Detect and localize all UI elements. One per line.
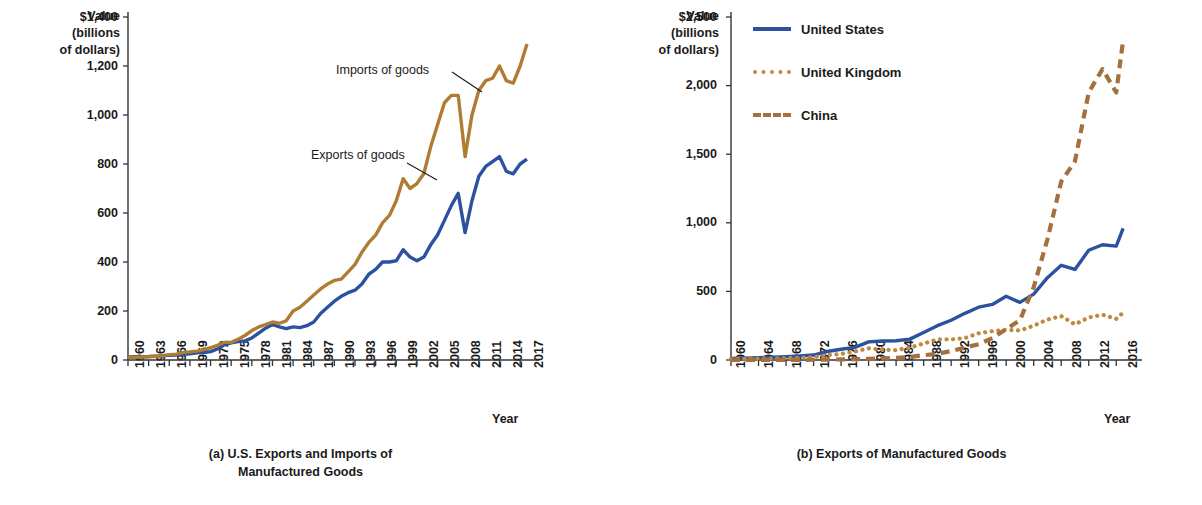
panel-a-caption-line1: (a) U.S. Exports and Imports of [0,445,601,463]
panel-a-caption: (a) U.S. Exports and Imports of Manufact… [0,445,601,481]
chart-panel-b: Value (billions of dollars) $2,500 2,000… [601,0,1202,505]
chart-panel-a: Value (billions of dollars) $1,400 1,200… [0,0,601,505]
panel-b-caption: (b) Exports of Manufactured Goods [601,445,1202,463]
panel-b-plot-area [601,0,1202,440]
panel-b-caption-line1: (b) Exports of Manufactured Goods [601,445,1202,463]
panel-a-caption-line2: Manufactured Goods [0,463,601,481]
panel-a-plot-area [0,0,601,440]
